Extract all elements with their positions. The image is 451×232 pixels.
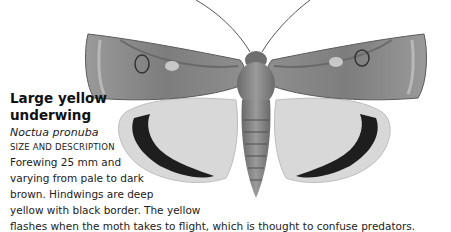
description-line: flashes when the moth takes to flight, w… [10,218,450,232]
description-line: brown. Hindwings are deep [10,186,450,202]
description-line: yellow with black border. The yellow [10,202,450,218]
species-text: Large yellow underwing Noctua pronuba Si… [10,90,450,232]
antenna-right [262,0,310,52]
common-name-line2: underwing [10,107,91,123]
description-line: varying from pale to dark [10,170,450,186]
description-line: Forewing 25 mm and [10,154,450,170]
species-common-name: Large yellow underwing [10,90,450,124]
common-name-line1: Large yellow [10,90,107,106]
antenna-left [196,0,250,52]
section-heading: Size and description [10,140,450,154]
species-description: Forewing 25 mm and varying from pale to … [10,154,450,232]
species-latin-name: Noctua pronuba [10,125,450,140]
